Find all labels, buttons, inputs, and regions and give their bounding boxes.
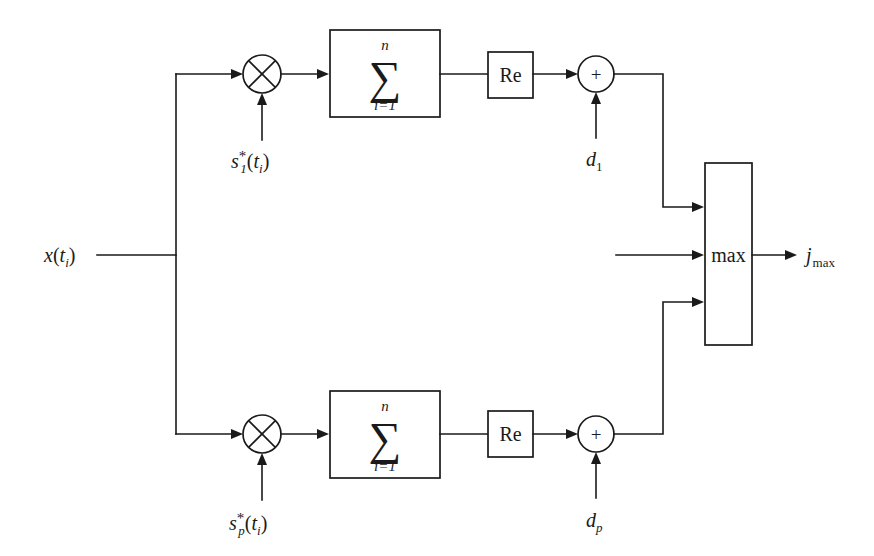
output-subscript: max	[813, 255, 836, 270]
sump-upper-limit: n	[381, 398, 389, 414]
arrowhead-to-multiplier-p	[231, 429, 243, 439]
summation-block-1: n ∑ i=1	[330, 30, 440, 117]
bias-label-p: dp	[586, 509, 603, 535]
sum1-upper-limit: n	[381, 37, 389, 53]
sump-lower-limit: i=1	[374, 458, 396, 474]
output-signal-label: jmax	[803, 244, 835, 270]
sum1-sigma-operator: ∑	[369, 52, 402, 103]
arrowhead-output	[785, 250, 797, 260]
adder-node-1: +	[578, 56, 614, 92]
rep-label: Re	[499, 423, 521, 445]
sump-sigma-operator: ∑	[369, 413, 402, 464]
arrowhead-bias-1	[591, 92, 601, 104]
adder-node-p: +	[578, 416, 614, 452]
reference-signal-label-p: s*p(ti)	[229, 510, 267, 538]
wire-branch-1-to-max	[614, 74, 696, 207]
bias-label-1: d1	[586, 148, 603, 174]
svg-text:s*p(ti): s*p(ti)	[229, 510, 267, 538]
real-part-block-1: Re	[488, 52, 533, 98]
arrowhead-bias-p	[591, 452, 601, 464]
input-signal-label: x(ti)	[43, 244, 75, 270]
input-symbol: x	[43, 244, 53, 266]
adder1-operator: +	[591, 64, 602, 85]
input-close-paren: )	[69, 244, 76, 267]
arrowhead-to-sum-1	[317, 69, 329, 79]
max-block-label: max	[711, 244, 745, 266]
max-block: max	[705, 163, 752, 345]
re1-label: Re	[499, 64, 521, 86]
arrowhead-to-sum-p	[317, 429, 329, 439]
wire-branch-p-to-max	[614, 302, 696, 434]
svg-text:x(ti): x(ti)	[43, 244, 75, 270]
multiplier-node-p	[243, 415, 281, 453]
biasp-subscript: p	[595, 520, 603, 535]
output-symbol: j	[803, 244, 812, 267]
arrowhead-to-adder-1	[566, 69, 578, 79]
svg-text:s*1(ti): s*1(ti)	[231, 148, 269, 176]
arrowhead-to-multiplier-1	[231, 69, 243, 79]
ref1-close-paren: )	[263, 150, 270, 173]
refp-symbol: s	[229, 512, 237, 534]
bias1-subscript: 1	[596, 159, 603, 174]
ref1-symbol: s	[231, 150, 239, 172]
sum1-lower-limit: i=1	[374, 97, 396, 113]
svg-text:d1: d1	[586, 148, 603, 174]
summation-block-p: n ∑ i=1	[330, 391, 440, 478]
arrowhead-branch-1-into-max	[692, 202, 704, 212]
svg-text:dp: dp	[586, 509, 603, 535]
arrowhead-branch-p-into-max	[692, 297, 704, 307]
real-part-block-p: Re	[488, 411, 533, 457]
arrowhead-reference-1	[257, 93, 267, 105]
arrowhead-reference-p	[257, 453, 267, 465]
block-diagram-canvas: x(ti) s*1(ti) n	[0, 0, 874, 556]
multiplier-node-1	[243, 55, 281, 93]
arrowhead-to-adder-p	[566, 429, 578, 439]
svg-text:jmax: jmax	[803, 244, 835, 270]
refp-close-paren: )	[261, 512, 268, 535]
adderp-operator: +	[591, 424, 602, 445]
signal-detector-diagram: x(ti) s*1(ti) n	[0, 0, 874, 556]
reference-signal-label-1: s*1(ti)	[231, 148, 269, 176]
arrowhead-middle-into-max	[692, 250, 704, 260]
